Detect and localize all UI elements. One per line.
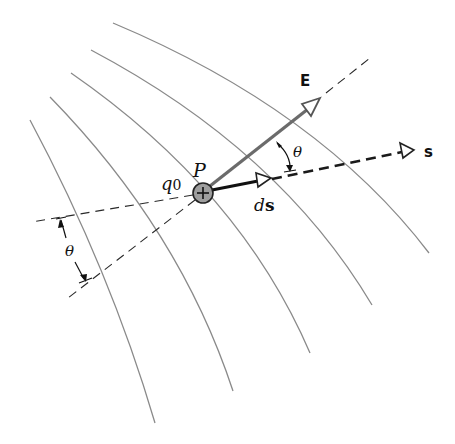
field-lines [30, 23, 429, 423]
perpendicular-s-line [32, 195, 193, 222]
ds-vector-shaft [212, 181, 258, 190]
charge-label: q0 [161, 173, 181, 194]
displacement-label: ds [254, 195, 274, 215]
field-vector-label: E [300, 72, 310, 90]
path-label: s [424, 143, 433, 161]
electric-field-diagram: P q0 E ds s θ θ [0, 0, 455, 444]
field-line-2 [91, 50, 372, 305]
angle-label-left: θ [65, 242, 74, 260]
point-label: P [192, 159, 207, 181]
perpendicular-e-line [68, 200, 195, 298]
field-line-4 [50, 97, 233, 391]
field-line-5 [30, 120, 155, 423]
e-extension-line [326, 58, 370, 93]
test-charge [193, 183, 213, 203]
path-s-arrowhead [400, 143, 414, 158]
angle-label-top: θ [293, 143, 302, 161]
